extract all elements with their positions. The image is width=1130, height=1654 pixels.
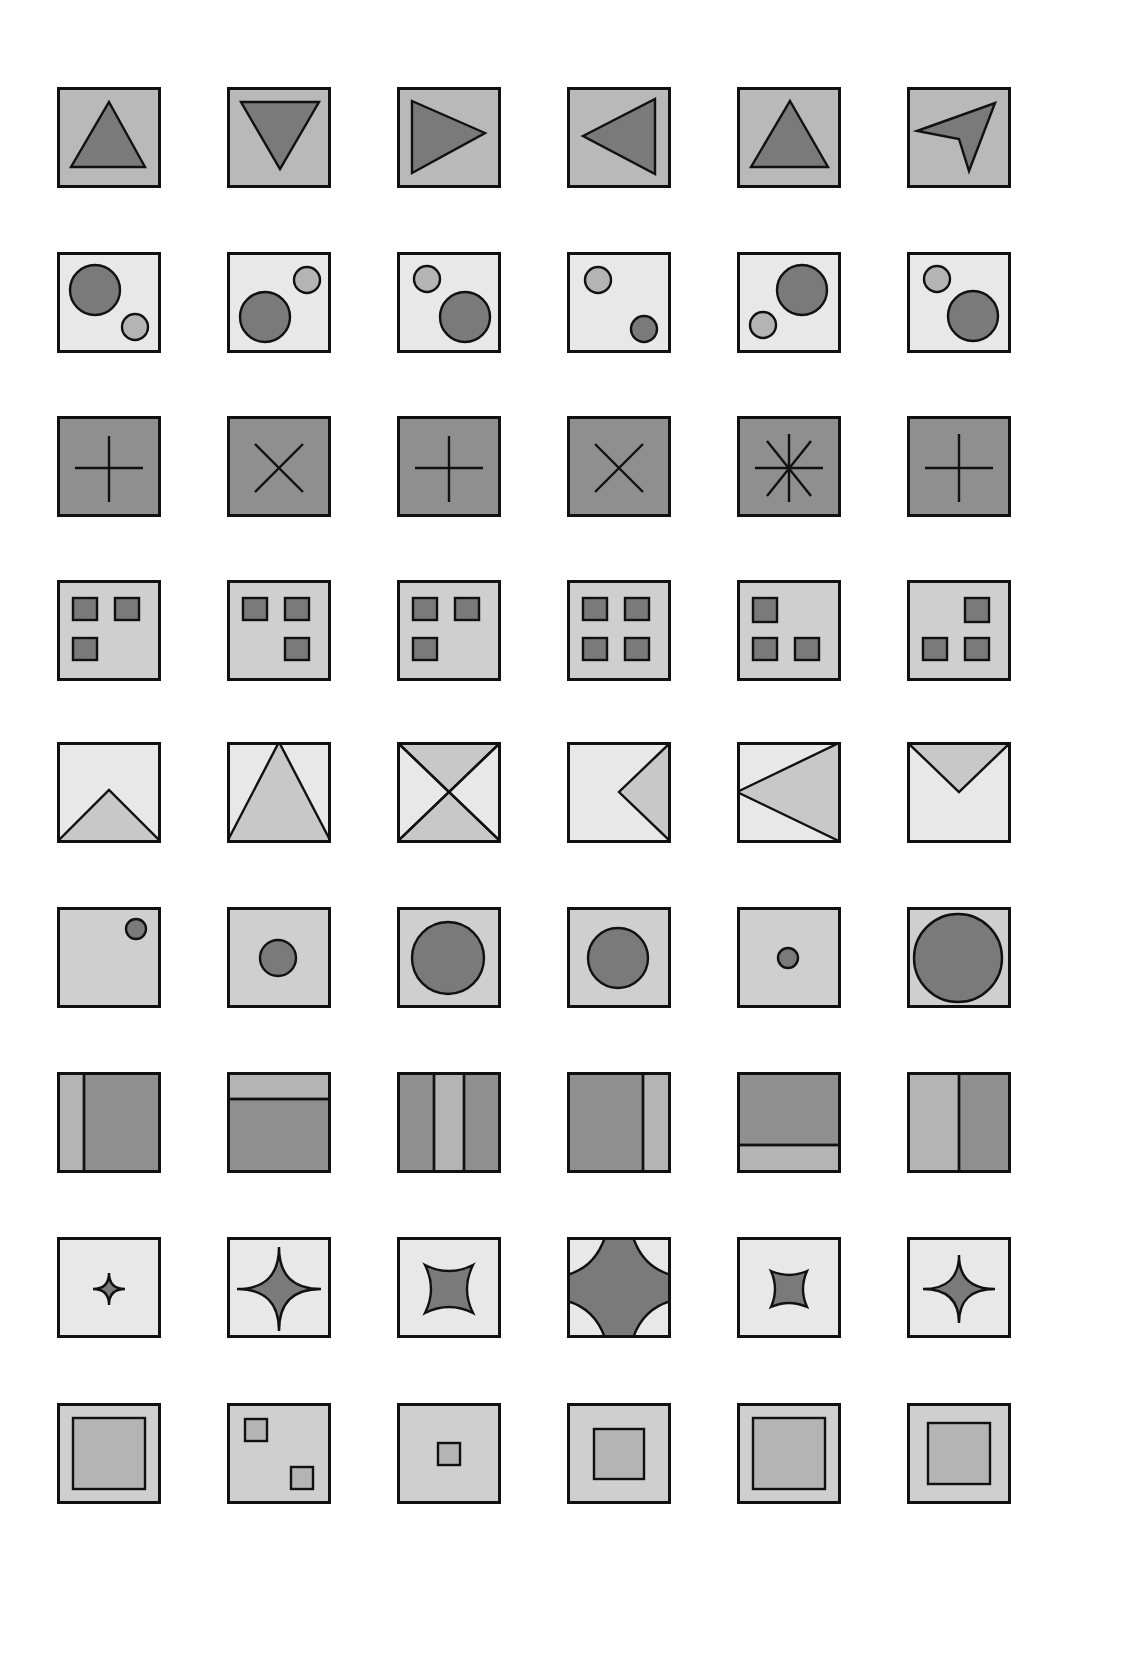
panel-two-circles-6 — [907, 252, 1011, 353]
small-topleft-big-bottomright-icon — [907, 252, 1011, 353]
tiny-center-square-icon — [397, 1403, 501, 1504]
panel-triangles-3 — [397, 87, 501, 188]
panel-single-circle-6 — [907, 907, 1011, 1008]
triangle-up-icon — [737, 87, 841, 188]
panel-triangles-2 — [227, 87, 331, 188]
panel-corner-triangles-3 — [397, 742, 501, 843]
small-circle-topright-icon — [57, 907, 161, 1008]
shape-matrix — [0, 0, 1130, 1654]
panel-crosses-5 — [737, 416, 841, 517]
arrow-pointer-icon — [907, 87, 1011, 188]
panel-nested-squares-4 — [567, 1403, 671, 1504]
panel-triangles-5 — [737, 87, 841, 188]
small-topleft-big-bottomright-icon — [397, 252, 501, 353]
x-cross-icon — [567, 416, 671, 517]
panel-astroids-1 — [57, 1237, 161, 1338]
corner-concave-fill-icon — [567, 1237, 671, 1338]
right-wide-triangle-icon — [737, 742, 841, 843]
bottom-tall-triangle-icon — [227, 742, 331, 843]
large-center-square-icon — [737, 1403, 841, 1504]
panel-crosses-2 — [227, 416, 331, 517]
panel-astroids-5 — [737, 1237, 841, 1338]
panel-astroids-2 — [227, 1237, 331, 1338]
medium-large-center-square-icon — [907, 1403, 1011, 1504]
panel-crosses-3 — [397, 416, 501, 517]
panel-astroids-3 — [397, 1237, 501, 1338]
top-left-bottom-left-bottom-right-icon — [737, 580, 841, 681]
panel-single-circle-2 — [227, 907, 331, 1008]
plus-icon — [57, 416, 161, 517]
plus-icon — [907, 416, 1011, 517]
panel-triangles-6 — [907, 87, 1011, 188]
panel-two-circles-1 — [57, 252, 161, 353]
panel-two-circles-3 — [397, 252, 501, 353]
small-concave-square-icon — [737, 1237, 841, 1338]
concave-square-icon — [397, 1237, 501, 1338]
large-circle-center-icon — [397, 907, 501, 1008]
panel-single-circle-1 — [57, 907, 161, 1008]
light-top-strip-icon — [227, 1072, 331, 1173]
panel-single-circle-4 — [567, 907, 671, 1008]
right-small-triangle-icon — [567, 742, 671, 843]
light-bottom-strip-icon — [737, 1072, 841, 1173]
panel-corner-triangles-6 — [907, 742, 1011, 843]
panel-corner-triangles-4 — [567, 742, 671, 843]
hourglass-x-icon — [397, 742, 501, 843]
panel-corner-triangles-5 — [737, 742, 841, 843]
panel-astroids-6 — [907, 1237, 1011, 1338]
tiny-circle-center-icon — [737, 907, 841, 1008]
panel-split-bands-4 — [567, 1072, 671, 1173]
bottom-small-triangle-icon — [57, 742, 161, 843]
top-small-triangle-icon — [907, 742, 1011, 843]
panel-corner-triangles-2 — [227, 742, 331, 843]
panel-nested-squares-6 — [907, 1403, 1011, 1504]
panel-triangles-1 — [57, 87, 161, 188]
top-left-top-right-bottom-left-icon — [397, 580, 501, 681]
panel-nested-squares-5 — [737, 1403, 841, 1504]
panel-nested-squares-1 — [57, 1403, 161, 1504]
x-cross-icon — [227, 416, 331, 517]
top-left-top-right-bottom-left-icon — [57, 580, 161, 681]
panel-crosses-1 — [57, 416, 161, 517]
panel-split-bands-1 — [57, 1072, 161, 1173]
panel-two-circles-4 — [567, 252, 671, 353]
light-right-strip-icon — [567, 1072, 671, 1173]
medium-circle-center-icon — [227, 907, 331, 1008]
panel-nested-squares-3 — [397, 1403, 501, 1504]
panel-single-circle-3 — [397, 907, 501, 1008]
top-left-top-right-bottom-right-icon — [227, 580, 331, 681]
panel-split-bands-2 — [227, 1072, 331, 1173]
panel-two-circles-5 — [737, 252, 841, 353]
panel-astroids-4 — [567, 1237, 671, 1338]
big-topleft-small-bottomright-icon — [57, 252, 161, 353]
big-topright-small-bottomleft-icon — [737, 252, 841, 353]
big-bottomleft-small-topright-icon — [227, 252, 331, 353]
small-four-point-star-icon — [57, 1237, 161, 1338]
panel-split-bands-5 — [737, 1072, 841, 1173]
panel-split-bands-6 — [907, 1072, 1011, 1173]
panel-corner-triangles-1 — [57, 742, 161, 843]
light-center-strip-icon — [397, 1072, 501, 1173]
triangle-right-icon — [397, 87, 501, 188]
triangle-down-icon — [227, 87, 331, 188]
panel-small-squares-1 — [57, 580, 161, 681]
panel-small-squares-4 — [567, 580, 671, 681]
plus-icon — [397, 416, 501, 517]
panel-small-squares-3 — [397, 580, 501, 681]
triangle-left-icon — [567, 87, 671, 188]
panel-single-circle-5 — [737, 907, 841, 1008]
large-inner-square-icon — [57, 1403, 161, 1504]
panel-crosses-6 — [907, 416, 1011, 517]
top-right-bottom-left-bottom-right-icon — [907, 580, 1011, 681]
panel-two-circles-2 — [227, 252, 331, 353]
asterisk-icon — [737, 416, 841, 517]
small-topleft-small-bottomright-icon — [567, 252, 671, 353]
medium-center-square-icon — [567, 1403, 671, 1504]
panel-nested-squares-2 — [227, 1403, 331, 1504]
panel-small-squares-6 — [907, 580, 1011, 681]
panel-small-squares-2 — [227, 580, 331, 681]
huge-circle-center-icon — [907, 907, 1011, 1008]
panel-small-squares-5 — [737, 580, 841, 681]
panel-triangles-4 — [567, 87, 671, 188]
light-left-strip-icon — [57, 1072, 161, 1173]
